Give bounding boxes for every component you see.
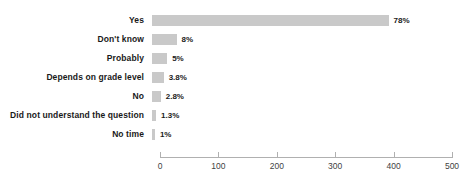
x-axis-tick — [218, 152, 219, 158]
bar-value-label: 5% — [172, 54, 184, 64]
bar-track: 5% — [152, 49, 467, 68]
category-label: Probably — [0, 53, 152, 64]
x-axis-tick — [394, 152, 395, 158]
bar-value-label: 2.8% — [166, 92, 184, 102]
plot-area: Yes78%Don't know8%Probably5%Depends on g… — [0, 11, 467, 145]
x-axis-tick-label: 400 — [387, 161, 401, 171]
bar-row: Don't know8% — [0, 30, 467, 49]
category-label: Yes — [0, 15, 152, 26]
category-label: No time — [0, 129, 152, 140]
x-axis-tick-label: 500 — [445, 161, 459, 171]
bar-track: 2.8% — [152, 87, 467, 106]
x-axis-tick — [160, 152, 161, 158]
bar-value-label: 1.3% — [161, 111, 179, 121]
bar-row: Yes78% — [0, 11, 467, 30]
bar-track: 8% — [152, 30, 467, 49]
bar-row: Probably5% — [0, 49, 467, 68]
bar[interactable] — [152, 110, 156, 121]
bar-chart: Yes78%Don't know8%Probably5%Depends on g… — [0, 0, 467, 185]
x-axis-tick — [335, 152, 336, 158]
bar[interactable] — [152, 129, 155, 140]
bar-value-label: 78% — [394, 16, 410, 26]
bar-row: No2.8% — [0, 87, 467, 106]
bar-track: 1.3% — [152, 106, 467, 125]
x-axis-tick-label: 0 — [158, 161, 163, 171]
x-axis-tick-label: 100 — [211, 161, 225, 171]
bar-track: 1% — [152, 125, 467, 144]
bar[interactable] — [152, 72, 164, 83]
bar-value-label: 1% — [160, 130, 172, 140]
bar-row: No time1% — [0, 125, 467, 144]
bar[interactable] — [152, 34, 177, 45]
x-axis-tick-label: 200 — [270, 161, 284, 171]
bar[interactable] — [152, 15, 389, 26]
bar-value-label: 8% — [182, 35, 194, 45]
x-axis-tick — [452, 152, 453, 158]
x-axis-tick-label: 300 — [328, 161, 342, 171]
bar-row: Depends on grade level3.8% — [0, 68, 467, 87]
bar-track: 3.8% — [152, 68, 467, 87]
bar-value-label: 3.8% — [169, 73, 187, 83]
bar-track: 78% — [152, 11, 467, 30]
category-label: Don't know — [0, 34, 152, 45]
bar[interactable] — [152, 53, 167, 64]
bar-row: Did not understand the question1.3% — [0, 106, 467, 125]
x-axis-line — [160, 157, 452, 158]
x-axis: 0100200300400500 — [0, 145, 467, 185]
category-label: No — [0, 91, 152, 102]
category-label: Did not understand the question — [0, 110, 152, 121]
x-axis-tick — [277, 152, 278, 158]
category-label: Depends on grade level — [0, 72, 152, 83]
bar[interactable] — [152, 91, 161, 102]
